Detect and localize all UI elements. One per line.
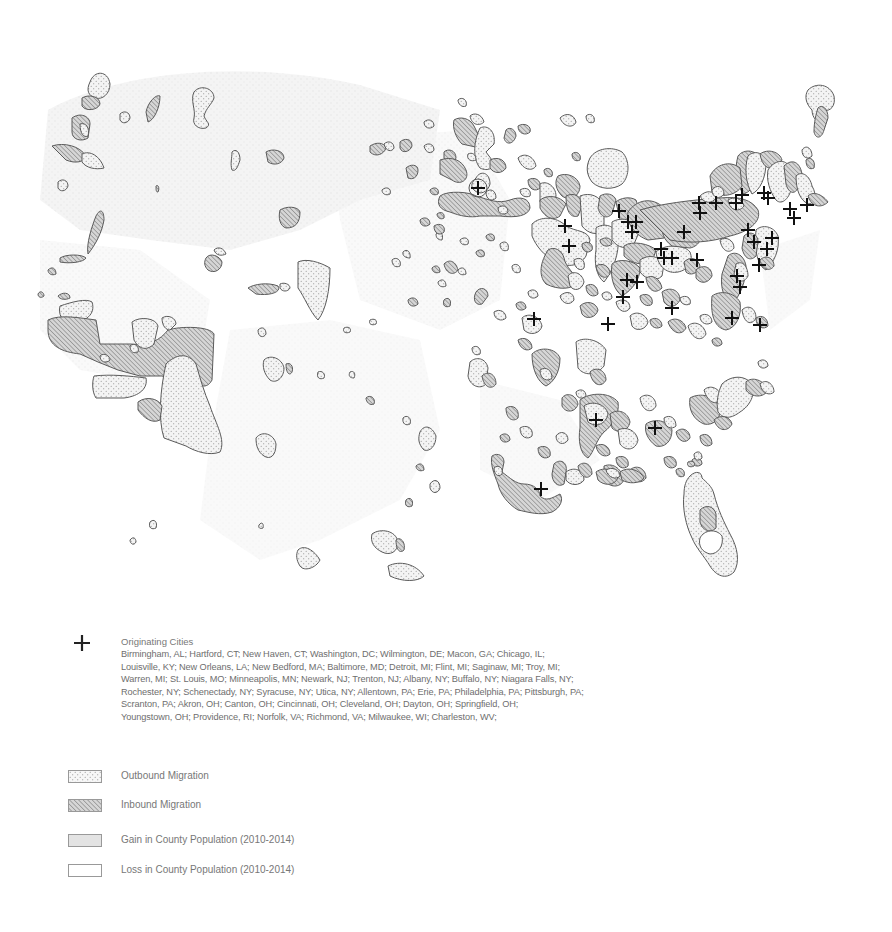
legend-label: Gain in County Population (2010-2014) xyxy=(121,834,294,845)
plus-icon xyxy=(72,633,92,653)
legend-cities-title: Originating Cities xyxy=(121,636,193,647)
cities-line: Birmingham, AL; Hartford, CT; New Haven,… xyxy=(121,648,621,661)
cities-line: Warren, MI; St. Louis, MO; Minneapolis, … xyxy=(121,673,621,686)
cities-line: Louisville, KY; New Orleans, LA; New Bed… xyxy=(121,661,621,674)
cities-line: Rochester, NY; Schenectady, NY; Syracuse… xyxy=(121,686,621,699)
legend-label: Loss in County Population (2010-2014) xyxy=(121,864,294,875)
cities-line: Youngstown, OH; Providence, RI; Norfolk,… xyxy=(121,711,621,724)
map-legend: Originating Cities Birmingham, AL; Hartf… xyxy=(60,630,620,760)
dotted-swatch-icon xyxy=(68,770,102,783)
gray-swatch-icon xyxy=(68,834,102,847)
legend-cities-list: Birmingham, AL; Hartford, CT; New Haven,… xyxy=(121,648,621,724)
legend-label: Inbound Migration xyxy=(121,799,201,810)
hatched-swatch-icon xyxy=(68,799,102,812)
legend-label: Outbound Migration xyxy=(121,770,209,781)
empty-swatch-icon xyxy=(68,864,102,877)
legend-originating-cities: Originating Cities Birmingham, AL; Hartf… xyxy=(60,630,620,760)
cities-line: Scranton, PA; Akron, OH; Canton, OH; Cin… xyxy=(121,698,621,711)
us-migration-map xyxy=(0,0,892,600)
